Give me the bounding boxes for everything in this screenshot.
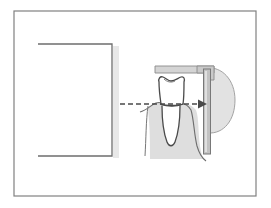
tube-head-shadow (113, 46, 119, 158)
dental-radiography-figure (0, 0, 271, 208)
figure-canvas (0, 0, 271, 208)
tooth-crown (159, 77, 185, 106)
sensor-highlight (205, 71, 207, 152)
